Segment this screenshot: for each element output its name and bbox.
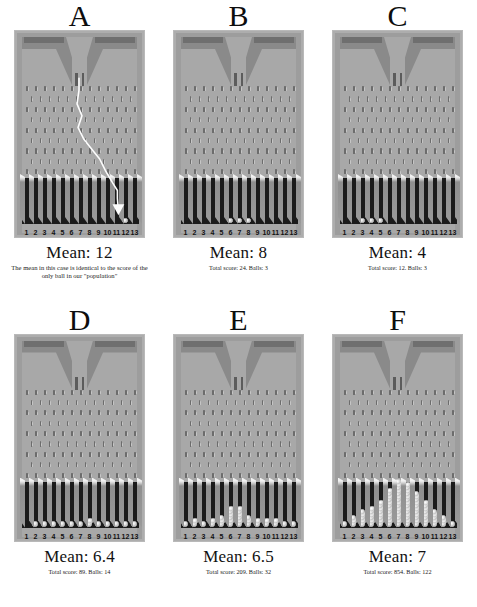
pin-row [183, 420, 294, 430]
pin [121, 96, 123, 101]
pin [26, 390, 28, 395]
pin [344, 128, 346, 133]
galton-board: 12345678910111213 [173, 334, 304, 542]
pin [271, 441, 273, 446]
pin [394, 462, 396, 467]
pin [190, 159, 192, 164]
pin [116, 128, 118, 133]
pin [389, 86, 391, 91]
pin [271, 96, 273, 101]
bin-divider [101, 478, 106, 528]
pin [362, 148, 364, 153]
pin [235, 138, 237, 143]
bin-divider [392, 478, 397, 528]
bin-divider [137, 174, 142, 224]
pin [452, 431, 454, 436]
pin [125, 86, 127, 91]
pin [412, 400, 414, 405]
pin [344, 86, 346, 91]
pin [80, 86, 82, 91]
pin [199, 421, 201, 426]
bin-area [181, 174, 296, 224]
pin [230, 128, 232, 133]
bin-number: 3 [199, 532, 208, 541]
pin [244, 400, 246, 405]
pin [293, 128, 295, 133]
pin [185, 148, 187, 153]
bin-number: 1 [340, 228, 349, 237]
pin [85, 462, 87, 467]
pin [67, 462, 69, 467]
pin [185, 431, 187, 436]
bin-divider [446, 174, 451, 224]
pin [430, 400, 432, 405]
bin-divider [401, 174, 406, 224]
pin [53, 148, 55, 153]
pin [94, 159, 96, 164]
bin-divider [83, 174, 88, 224]
pin [244, 441, 246, 446]
pin [367, 441, 369, 446]
pin [344, 452, 346, 457]
pin [121, 462, 123, 467]
hopper-funnel [22, 37, 137, 85]
pin [116, 107, 118, 112]
pin [407, 452, 409, 457]
pin [53, 452, 55, 457]
pin [371, 390, 373, 395]
hopper-bar-right [254, 341, 294, 347]
panel-letter: F [389, 305, 406, 336]
pin [412, 441, 414, 446]
pin [257, 390, 259, 395]
pin [358, 421, 360, 426]
pin [275, 148, 277, 153]
bin-divider [110, 478, 115, 528]
bin-divider [410, 478, 415, 528]
pin [230, 86, 232, 91]
pin [398, 452, 400, 457]
pin [271, 117, 273, 122]
pin [80, 148, 82, 153]
pin [89, 107, 91, 112]
pin [230, 452, 232, 457]
pin [398, 148, 400, 153]
pin [71, 86, 73, 91]
bin-area [340, 174, 455, 224]
bin-divider [287, 478, 292, 528]
pin [380, 390, 382, 395]
pin [199, 400, 201, 405]
pin [344, 148, 346, 153]
mean-label: Mean: 4 [369, 242, 427, 263]
pin-row [342, 389, 453, 399]
pin [103, 138, 105, 143]
pin [235, 441, 237, 446]
bin-number-row: 12345678910111213 [340, 224, 455, 237]
bin-number: 8 [244, 532, 253, 541]
pin [344, 431, 346, 436]
pin [358, 441, 360, 446]
bin-divider [20, 174, 25, 224]
pin [280, 462, 282, 467]
pin [107, 410, 109, 415]
pin [190, 400, 192, 405]
pin [217, 117, 219, 122]
pin [289, 462, 291, 467]
bin-number: 6 [385, 228, 394, 237]
bin-number: 9 [253, 532, 262, 541]
bin-number: 12 [280, 228, 289, 237]
panel-d: D12345678910111213Mean: 6.4Total score: … [0, 304, 159, 607]
bin-number: 7 [76, 228, 85, 237]
pin [112, 96, 114, 101]
pin [452, 128, 454, 133]
pin [394, 117, 396, 122]
pin [443, 431, 445, 436]
pin [112, 421, 114, 426]
pin [280, 138, 282, 143]
pin [62, 86, 64, 91]
pin [385, 96, 387, 101]
panel-letter: B [228, 1, 248, 32]
pin [421, 441, 423, 446]
pin [349, 421, 351, 426]
pin [280, 421, 282, 426]
pin [112, 441, 114, 446]
